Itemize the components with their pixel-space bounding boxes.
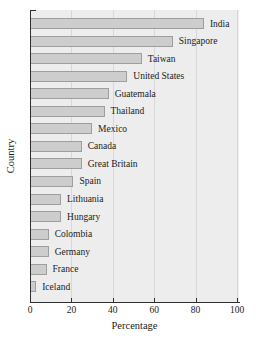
gridline-100	[237, 10, 238, 302]
bar-taiwan	[30, 53, 142, 64]
bar-label-united-states: United States	[133, 71, 184, 82]
bar-guatemala	[30, 88, 109, 99]
bar-label-thailand: Thailand	[111, 106, 145, 117]
bar-hungary	[30, 211, 61, 222]
x-tick-label-0: 0	[15, 305, 45, 315]
bar-label-taiwan: Taiwan	[148, 54, 176, 65]
x-tick-40	[113, 298, 114, 302]
bar-great-britain	[30, 158, 82, 169]
bar-label-lithuania: Lithuania	[67, 194, 103, 205]
bar-label-great-britain: Great Britain	[88, 159, 138, 170]
bar-chart-figure: Country IndiaSingaporeTaiwanUnited State…	[0, 0, 256, 342]
bar-colombia	[30, 229, 49, 240]
y-axis-title: Country	[5, 139, 16, 173]
bar-label-canada: Canada	[88, 141, 117, 152]
bar-germany	[30, 246, 49, 257]
bar-singapore	[30, 36, 173, 47]
bar-label-guatemala: Guatemala	[115, 89, 156, 100]
x-tick-20	[71, 298, 72, 302]
bar-label-france: France	[53, 264, 79, 275]
x-tick-80	[196, 298, 197, 302]
x-tick-label-100: 100	[222, 305, 252, 315]
x-tick-label-20: 20	[56, 305, 86, 315]
bar-label-colombia: Colombia	[55, 229, 92, 240]
bar-france	[30, 264, 47, 275]
x-tick-label-60: 60	[139, 305, 169, 315]
x-tick-100	[237, 298, 238, 302]
bar-label-mexico: Mexico	[98, 124, 127, 135]
bar-united-states	[30, 71, 127, 82]
bar-label-singapore: Singapore	[179, 36, 218, 47]
bar-lithuania	[30, 194, 61, 205]
bar-spain	[30, 176, 73, 187]
x-axis-line	[30, 302, 240, 303]
bar-thailand	[30, 106, 105, 117]
bar-label-hungary: Hungary	[67, 212, 100, 223]
bar-label-iceland: Iceland	[42, 282, 70, 293]
bar-label-germany: Germany	[55, 247, 90, 258]
y-axis-top-tick	[31, 10, 36, 11]
bar-india	[30, 18, 204, 29]
bar-label-spain: Spain	[79, 176, 101, 187]
x-tick-60	[154, 298, 155, 302]
bar-canada	[30, 141, 82, 152]
x-tick-label-40: 40	[98, 305, 128, 315]
bar-mexico	[30, 123, 92, 134]
gridline-80	[196, 10, 197, 302]
x-tick-label-80: 80	[181, 305, 211, 315]
x-axis-title: Percentage	[30, 320, 239, 331]
plot-area: IndiaSingaporeTaiwanUnited StatesGuatema…	[30, 10, 239, 302]
bar-label-india: India	[210, 19, 230, 30]
y-axis-line	[30, 10, 31, 303]
